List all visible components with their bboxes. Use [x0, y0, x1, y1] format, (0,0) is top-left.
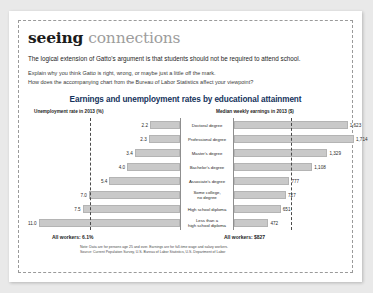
- feature-prompt-line-2: How does the accompanying chart from the…: [28, 78, 343, 87]
- worksheet-page: seeing connections The logical extension…: [9, 11, 362, 282]
- unemployment-value: 2.3: [140, 137, 146, 142]
- unemployment-value: 7.5: [74, 207, 80, 212]
- category-label: Master's degree: [192, 151, 223, 156]
- category-label: Less than ahigh school diploma: [188, 218, 226, 228]
- category-label-cell: Associate's degree: [180, 174, 234, 188]
- earnings-bar: [234, 205, 281, 214]
- earnings-cell: 1,108: [234, 160, 343, 174]
- chart-row: 7.0Some college,no degree727: [28, 188, 343, 202]
- heading-word-connections: connections: [88, 29, 180, 47]
- chart-title: Earnings and unemployment rates by educa…: [28, 95, 343, 104]
- chart-source: Source: Current Population Survey, U.S. …: [80, 250, 343, 255]
- unemployment-value: 4.0: [119, 165, 125, 170]
- unemployment-value: 7.0: [81, 193, 87, 198]
- unemployment-bar: [150, 121, 180, 130]
- category-label: Associate's degree: [189, 179, 225, 184]
- earnings-cell: 472: [234, 216, 343, 230]
- chart-row: 5.4Associate's degree777: [28, 174, 343, 188]
- all-workers-unemployment: All workers: 6.1%: [52, 234, 93, 240]
- earnings-cell: 1,623: [234, 118, 361, 132]
- heading-word-seeing: seeing: [28, 28, 83, 47]
- earnings-value: 1,714: [356, 137, 368, 142]
- category-label: Doctoral degree: [192, 123, 223, 128]
- category-label-cell: Doctoral degree: [180, 118, 234, 132]
- category-label-cell: Some college,no degree: [180, 188, 234, 202]
- feature-prompt-line-1: Explain why you think Gatto is right, wr…: [28, 69, 343, 78]
- unemployment-cell: 5.4: [28, 174, 180, 188]
- unemployment-value: 3.4: [126, 151, 132, 156]
- all-workers-row: All workers: 6.1% All workers: $827: [28, 232, 343, 243]
- bls-chart: Earnings and unemployment rates by educa…: [28, 95, 343, 256]
- unemployment-cell: 11.0: [28, 216, 180, 230]
- earnings-bar: [234, 135, 354, 144]
- chart-row: 4.0Bachelor's degree1,108: [28, 160, 343, 174]
- earnings-value: 777: [291, 179, 299, 184]
- feature-lede: The logical extension of Gatto's argumen…: [28, 54, 343, 63]
- chart-footnotes: Note: Data are for persons age 25 and ov…: [28, 245, 343, 256]
- category-label-cell: High school diploma: [180, 202, 234, 216]
- page-content: seeing connections The logical extension…: [28, 28, 343, 268]
- unemployment-bar: [109, 177, 180, 186]
- earnings-value: 651: [283, 207, 291, 212]
- earnings-bar: [234, 177, 289, 186]
- earnings-value: 472: [270, 221, 278, 226]
- unemployment-bar: [39, 219, 180, 228]
- unemployment-cell: 2.3: [28, 132, 180, 146]
- earnings-cell: 777: [234, 174, 343, 188]
- unemployment-cell: 3.4: [28, 146, 180, 160]
- earnings-cell: 1,714: [234, 132, 368, 146]
- unemployment-bar: [135, 149, 180, 158]
- reference-line-earnings: [291, 118, 292, 230]
- all-workers-earnings: All workers: $827: [224, 234, 265, 240]
- right-axis-header: Median weekly earnings in 2013 ($): [216, 109, 294, 114]
- earnings-cell: 1,329: [234, 146, 343, 160]
- earnings-bar: [234, 163, 312, 172]
- unemployment-cell: 7.5: [28, 202, 180, 216]
- unemployment-value: 2.2: [142, 123, 148, 128]
- category-label: High school diploma: [188, 207, 227, 212]
- left-axis-header: Unemployment rate in 2013 (%): [34, 109, 104, 114]
- unemployment-bar: [89, 191, 180, 200]
- earnings-cell: 727: [234, 188, 343, 202]
- chart-row: 7.5High school diploma651: [28, 202, 343, 216]
- earnings-cell: 651: [234, 202, 343, 216]
- unemployment-value: 11.0: [28, 221, 37, 226]
- unemployment-cell: 2.2: [28, 118, 180, 132]
- reference-line-unemployment: [90, 118, 91, 230]
- unemployment-bar: [127, 163, 180, 172]
- category-label-cell: Less than ahigh school diploma: [180, 216, 234, 230]
- category-label-cell: Bachelor's degree: [180, 160, 234, 174]
- category-label: Some college,no degree: [193, 190, 220, 200]
- category-label: Bachelor's degree: [190, 165, 225, 170]
- earnings-bar: [234, 191, 286, 200]
- unemployment-bar: [149, 135, 180, 144]
- earnings-bar: [234, 219, 268, 228]
- unemployment-value: 5.4: [101, 179, 107, 184]
- category-label-cell: Master's degree: [180, 146, 234, 160]
- chart-row: 11.0Less than ahigh school diploma472: [28, 216, 343, 230]
- category-label-cell: Professional degree: [180, 132, 234, 146]
- earnings-bar: [234, 149, 327, 158]
- category-label: Professional degree: [188, 137, 226, 142]
- earnings-value: 1,623: [350, 123, 362, 128]
- unemployment-bar: [83, 205, 180, 214]
- chart-rows: 2.2Doctoral degree1,6232.3Professional d…: [28, 118, 343, 230]
- chart-row: 2.2Doctoral degree1,623: [28, 118, 343, 132]
- unemployment-cell: 7.0: [28, 188, 180, 202]
- earnings-value: 1,329: [329, 151, 341, 156]
- unemployment-cell: 4.0: [28, 160, 180, 174]
- chart-row: 2.3Professional degree1,714: [28, 132, 343, 146]
- feature-heading: seeing connections: [28, 28, 343, 47]
- chart-axis-headers: Unemployment rate in 2013 (%) Median wee…: [28, 109, 343, 118]
- chart-row: 3.4Master's degree1,329: [28, 146, 343, 160]
- earnings-value: 1,108: [314, 165, 326, 170]
